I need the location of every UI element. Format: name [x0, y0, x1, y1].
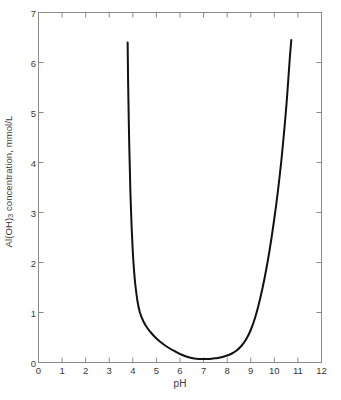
data-series-line [128, 40, 292, 359]
x-tick-label: 5 [154, 365, 159, 376]
x-tick-label: 6 [177, 365, 182, 376]
x-tick-label: 12 [316, 365, 327, 376]
x-tick-label: 8 [225, 365, 230, 376]
x-tick-label: 1 [59, 365, 64, 376]
x-tick-label: 0 [36, 365, 41, 376]
plot-canvas [0, 0, 341, 400]
x-tick-label: 4 [130, 365, 135, 376]
x-tick-label: 11 [293, 365, 303, 376]
x-tick-label: 7 [201, 365, 206, 376]
x-tick-label: 9 [248, 365, 253, 376]
x-tick-label: 3 [107, 365, 112, 376]
x-axis-title: pH [38, 378, 322, 389]
x-tick-label: 10 [269, 365, 280, 376]
x-tick-label: 2 [83, 365, 88, 376]
chart-figure: Al(OH)3 concentration, mmol/L 01234567 0… [0, 0, 341, 400]
